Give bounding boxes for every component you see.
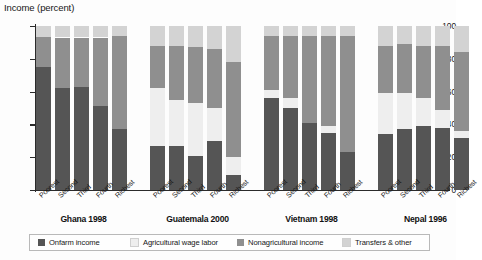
bar-segment bbox=[283, 98, 298, 108]
stacked-bar[interactable] bbox=[93, 26, 108, 190]
bar-segment bbox=[321, 26, 336, 36]
bar-segment bbox=[93, 26, 108, 37]
bar-segment bbox=[264, 90, 279, 98]
bar-segment bbox=[340, 36, 355, 152]
bar-segment bbox=[207, 49, 222, 108]
stacked-bar[interactable] bbox=[340, 26, 355, 190]
bar-segment bbox=[283, 26, 298, 36]
bar-segment bbox=[435, 46, 450, 110]
stacked-bar[interactable] bbox=[321, 26, 336, 190]
bar-segment bbox=[36, 67, 51, 190]
bar-segment bbox=[416, 46, 431, 98]
bar-segment bbox=[416, 26, 431, 46]
bar-segment bbox=[93, 106, 108, 190]
bar-segment bbox=[93, 38, 108, 107]
bar-segment bbox=[55, 88, 70, 190]
group-label: Guatemala 2000 bbox=[132, 214, 263, 224]
bar-segment bbox=[74, 26, 89, 37]
bar-segment bbox=[169, 26, 184, 46]
stacked-bar[interactable] bbox=[226, 26, 241, 190]
bar-segment bbox=[378, 46, 393, 94]
bar-segment bbox=[169, 100, 184, 146]
legend-item[interactable]: Onfarm income bbox=[38, 235, 100, 250]
bar-segment bbox=[397, 26, 412, 44]
stacked-bar[interactable] bbox=[188, 26, 203, 190]
bar-segment bbox=[283, 36, 298, 98]
bar-segment bbox=[207, 26, 222, 49]
bar-segment bbox=[150, 46, 165, 89]
bar-segment bbox=[226, 26, 241, 62]
bar-segment bbox=[378, 26, 393, 46]
bar-segment bbox=[378, 93, 393, 134]
bar-segment bbox=[283, 108, 298, 190]
legend-item[interactable]: Transfers & other bbox=[342, 235, 412, 250]
bar-segment bbox=[150, 26, 165, 46]
stacked-bar[interactable] bbox=[112, 26, 127, 190]
legend-label: Transfers & other bbox=[355, 238, 412, 247]
bar-segment bbox=[264, 26, 279, 36]
legend-label: Nonagricultural income bbox=[248, 238, 323, 247]
legend-label: Agricultural wage labor bbox=[143, 238, 218, 247]
bar-segment bbox=[397, 93, 412, 129]
bar-segment bbox=[435, 26, 450, 46]
legend-item[interactable]: Agricultural wage labor bbox=[130, 235, 218, 250]
group-label: Ghana 1998 bbox=[18, 214, 149, 224]
bar-segment bbox=[36, 26, 51, 37]
bar-segment bbox=[188, 26, 203, 47]
stacked-bar[interactable] bbox=[264, 26, 279, 190]
group-label: Vietnam 1998 bbox=[246, 214, 377, 224]
bar-segment bbox=[264, 36, 279, 90]
bar-segment bbox=[150, 88, 165, 145]
legend-swatch bbox=[342, 238, 351, 247]
bar-segment bbox=[112, 36, 127, 129]
bar-segment bbox=[454, 52, 469, 131]
bar-segment bbox=[416, 98, 431, 126]
stacked-bar[interactable] bbox=[150, 26, 165, 190]
stacked-bar[interactable] bbox=[435, 26, 450, 190]
bar-segment bbox=[74, 38, 89, 87]
legend-label: Onfarm income bbox=[49, 238, 100, 247]
bar-segment bbox=[169, 46, 184, 100]
bar-segment bbox=[36, 37, 51, 67]
stacked-bar[interactable] bbox=[55, 26, 70, 190]
stacked-bar[interactable] bbox=[169, 26, 184, 190]
bar-segment bbox=[55, 26, 70, 37]
bar-segment bbox=[302, 36, 317, 123]
bar-segment bbox=[226, 157, 241, 175]
stacked-bar[interactable] bbox=[454, 26, 469, 190]
bar-segment bbox=[454, 131, 469, 138]
bar-segment bbox=[74, 87, 89, 190]
legend-swatch bbox=[130, 238, 139, 247]
stacked-bar[interactable] bbox=[302, 26, 317, 190]
bar-segment bbox=[302, 26, 317, 36]
bar-segment bbox=[188, 47, 203, 103]
stacked-bar[interactable] bbox=[283, 26, 298, 190]
stacked-bar[interactable] bbox=[74, 26, 89, 190]
bar-segment bbox=[321, 126, 336, 133]
stacked-bar[interactable] bbox=[207, 26, 222, 190]
legend-swatch bbox=[237, 239, 244, 246]
bar-segment bbox=[188, 103, 203, 155]
stacked-bar[interactable] bbox=[397, 26, 412, 190]
bar-segment bbox=[207, 108, 222, 141]
chart-title: Income (percent) bbox=[4, 2, 74, 13]
bar-segment bbox=[435, 110, 450, 128]
bar-segment bbox=[55, 38, 70, 89]
bar-segment bbox=[112, 26, 127, 36]
bar-segment bbox=[226, 62, 241, 157]
bar-segment bbox=[397, 44, 412, 93]
legend-item[interactable]: Nonagricultural income bbox=[237, 235, 323, 250]
group-label: Nepal 1996 bbox=[360, 214, 482, 224]
bar-segment bbox=[264, 98, 279, 190]
chart-legend: Onfarm incomeAgricultural wage laborNona… bbox=[29, 234, 430, 251]
bar-segment bbox=[321, 36, 336, 126]
plot-area bbox=[36, 26, 450, 190]
stacked-bar[interactable] bbox=[36, 26, 51, 190]
bar-segment bbox=[340, 26, 355, 36]
stacked-bar[interactable] bbox=[378, 26, 393, 190]
stacked-bar[interactable] bbox=[416, 26, 431, 190]
legend-swatch bbox=[38, 239, 45, 246]
bar-segment bbox=[454, 26, 469, 52]
y-axis-tick bbox=[30, 190, 36, 191]
